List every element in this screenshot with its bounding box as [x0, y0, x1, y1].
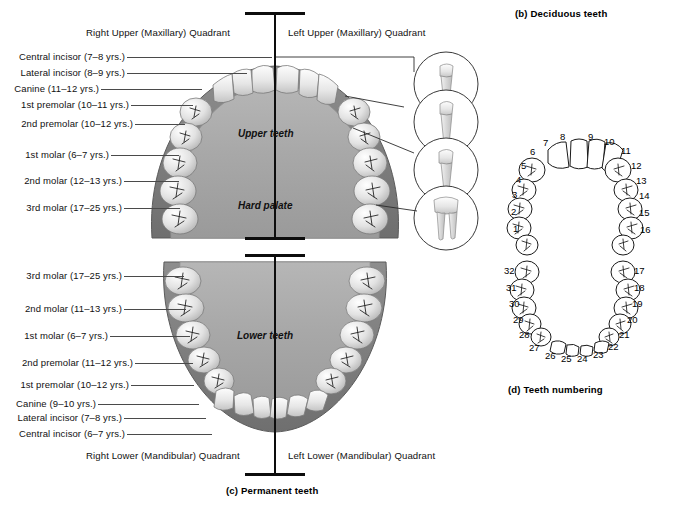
- tooth-number: 12: [631, 160, 642, 171]
- tooth-number: 30: [509, 298, 520, 309]
- tooth-label: 2nd molar (11–13 yrs.): [8, 303, 122, 314]
- upper-midline-cap-top: [245, 12, 305, 15]
- numbering-arch-artwork: [507, 139, 643, 356]
- tooth-number: 7: [543, 137, 548, 148]
- leader-line: [127, 57, 272, 58]
- leader-line: [124, 181, 179, 182]
- tooth-label: 1st molar (6–7 yrs.): [8, 149, 109, 160]
- tooth-label: Central incisor (6–7 yrs.): [8, 428, 125, 439]
- quadrant-left-lower: Left Lower (Mandibular) Quadrant: [288, 450, 435, 461]
- tooth-label: Lateral incisor (7–8 yrs.): [8, 412, 122, 423]
- lower-midline-rule: [274, 254, 276, 476]
- tooth-label: 2nd premolar (10–12 yrs.): [8, 118, 133, 129]
- tooth-number: 13: [636, 175, 647, 186]
- leader-line: [127, 434, 212, 435]
- leader-line: [110, 336, 190, 337]
- tooth-number: 28: [519, 329, 530, 340]
- tooth-number: 8: [560, 131, 565, 142]
- tooth-label: 2nd molar (12–13 yrs.): [8, 175, 122, 186]
- tooth-number: 1: [513, 223, 518, 234]
- tooth-number: 4: [516, 174, 521, 185]
- leader-line: [124, 208, 180, 209]
- tooth-number: 23: [593, 349, 604, 360]
- lower-midline-cap-top: [245, 254, 305, 257]
- tooth-label: 1st premolar (10–11 yrs.): [8, 99, 129, 110]
- label-hard-palate: Hard palate: [238, 200, 292, 211]
- tooth-number: 27: [529, 342, 540, 353]
- quadrant-left-upper: Left Upper (Maxillary) Quadrant: [288, 27, 425, 38]
- tooth-number: 15: [639, 207, 650, 218]
- leader-line: [135, 124, 185, 125]
- lower-midline-cap-bottom: [245, 473, 305, 476]
- tooth-number: 3: [512, 189, 517, 200]
- leader-line: [127, 73, 247, 74]
- tooth-number: 19: [632, 298, 643, 309]
- tooth-number: 9: [588, 131, 593, 142]
- tooth-label: 1st premolar (10–12 yrs.): [8, 379, 129, 390]
- quadrant-right-upper: Right Upper (Maxillary) Quadrant: [86, 27, 230, 38]
- tooth-number: 26: [545, 350, 556, 361]
- tooth-number: 6: [530, 146, 535, 157]
- leader-line: [101, 89, 202, 90]
- caption-panel-c: (c) Permanent teeth: [226, 485, 318, 496]
- leader-line: [135, 363, 193, 364]
- tooth-number: 2: [511, 206, 516, 217]
- tooth-label: 3rd molar (17–25 yrs.): [8, 270, 122, 281]
- tooth-number: 16: [640, 224, 651, 235]
- leader-line: [124, 309, 186, 310]
- tooth-number: 18: [634, 282, 645, 293]
- tooth-number: 14: [639, 190, 650, 201]
- tooth-number: 5: [521, 160, 526, 171]
- tooth-number: 11: [621, 145, 631, 156]
- leader-line: [111, 155, 179, 156]
- caption-panel-b: (b) Deciduous teeth: [515, 8, 607, 19]
- label-lower-teeth: Lower teeth: [237, 330, 293, 341]
- tooth-label: Canine (11–12 yrs.): [8, 83, 99, 94]
- tooth-number: 32: [504, 265, 515, 276]
- tooth-label: Canine (9–10 yrs.): [8, 398, 96, 409]
- leader-line: [131, 385, 194, 386]
- tooth-label: 1st molar (6–7 yrs.): [8, 330, 108, 341]
- tooth-label: 3rd molar (17–25 yrs.): [8, 202, 122, 213]
- tooth-number: 10: [604, 136, 615, 147]
- tooth-number: 20: [627, 314, 638, 325]
- upper-midline-cap-bottom: [245, 237, 305, 240]
- tooth-label: Central incisor (7–8 yrs.): [8, 51, 125, 62]
- leader-line: [124, 276, 184, 277]
- caption-panel-d: (d) Teeth numbering: [508, 384, 603, 395]
- tooth-label: Lateral incisor (8–9 yrs.): [8, 67, 125, 78]
- tooth-label: 2nd premolar (11–12 yrs.): [8, 357, 133, 368]
- tooth-number: 31: [506, 282, 517, 293]
- leader-line: [131, 105, 193, 106]
- leader-line: [124, 418, 206, 419]
- tooth-number: 29: [513, 314, 524, 325]
- teeth-anatomy-figure: Right Upper (Maxillary) Quadrant Left Up…: [0, 0, 673, 507]
- tooth-number: 24: [577, 353, 588, 364]
- tooth-number: 25: [561, 353, 572, 364]
- tooth-number: 21: [619, 329, 630, 340]
- callout-molar: [414, 186, 478, 250]
- leader-line: [98, 404, 199, 405]
- tooth-number: 17: [634, 265, 645, 276]
- label-upper-teeth: Upper teeth: [238, 128, 294, 139]
- quadrant-right-lower: Right Lower (Mandibular) Quadrant: [86, 450, 240, 461]
- tooth-number: 22: [608, 341, 619, 352]
